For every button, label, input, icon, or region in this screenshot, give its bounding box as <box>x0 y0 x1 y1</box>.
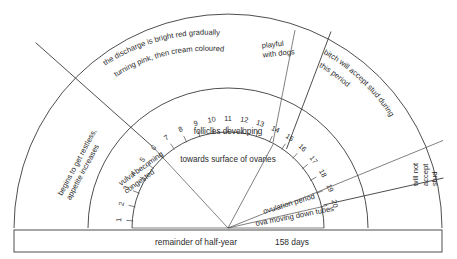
notaccept-line2: accept <box>421 163 430 186</box>
sector-label-vulva: vulva becoming congested <box>117 149 171 195</box>
scale-tick <box>282 144 286 150</box>
sector-label-playful: playful with dogs <box>260 38 295 60</box>
scale-tick <box>310 177 316 181</box>
scale-number: 16 <box>297 142 309 154</box>
scale-number: 10 <box>207 115 216 125</box>
sector-label-ovaries: towards surface of ovaries <box>180 155 276 164</box>
scale-ticks <box>126 126 327 221</box>
scale-number: 19 <box>324 183 335 194</box>
footer-remainder-label: remainder of half-year <box>155 237 237 247</box>
scale-number: 15 <box>284 131 296 143</box>
sector-label-follicles: follicles developing <box>194 127 263 136</box>
scale-tick <box>293 153 298 158</box>
scale-number: 12 <box>240 115 249 125</box>
scale-number: 8 <box>177 124 185 134</box>
scale-number: 2 <box>116 201 126 207</box>
footer-days-value: 158 days <box>275 237 309 247</box>
scale-tick <box>302 164 307 168</box>
sector-label-restless: begins to get restless, appetite increas… <box>56 127 107 201</box>
oestrus-dial-svg: 1234567891011121314151617181920 begins t… <box>0 0 457 259</box>
scale-number: 1 <box>114 217 123 222</box>
scale-number: 14 <box>270 123 281 135</box>
scale-tick <box>184 136 187 142</box>
scale-number: 11 <box>224 114 231 123</box>
notaccept-line1: will not <box>411 162 420 187</box>
scale-tick <box>269 136 272 142</box>
diagram-canvas: 1234567891011121314151617181920 begins t… <box>0 0 457 259</box>
sector-label-not-accept: will not accept stud <box>411 162 439 187</box>
scale-number: 18 <box>317 167 329 178</box>
scale-tick <box>171 144 175 150</box>
scale-number: 7 <box>162 133 170 143</box>
scale-number: 17 <box>308 154 320 166</box>
notaccept-line3: stud <box>430 172 439 186</box>
